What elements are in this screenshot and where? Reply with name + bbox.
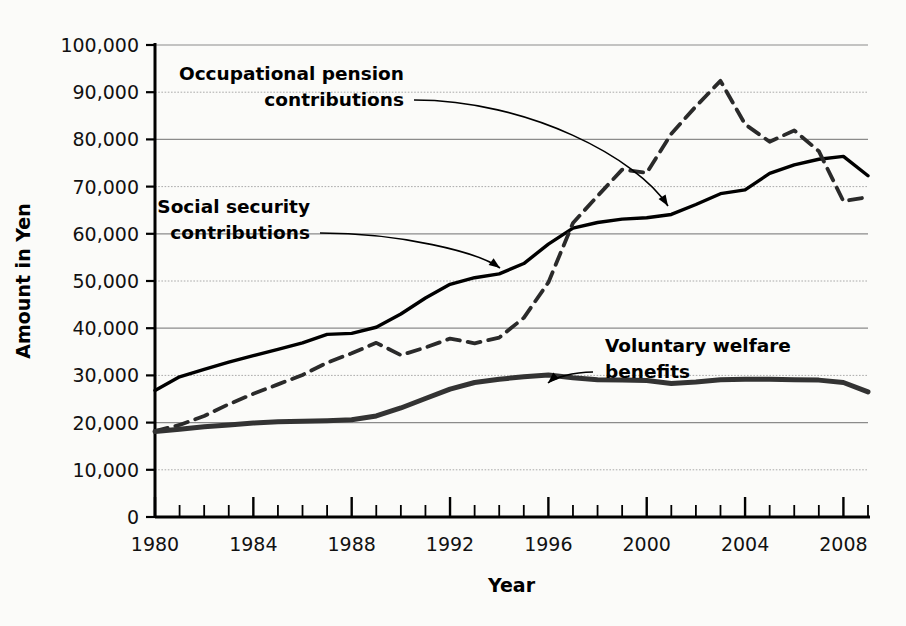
occupational-pension-annotation-leader (414, 100, 668, 206)
social-security-annotation-leader (320, 233, 500, 268)
line-chart: 010,00020,00030,00040,00050,00060,00070,… (0, 0, 906, 626)
x-tick-label: 2004 (721, 533, 769, 555)
x-axis: 19801984198819921996200020042008 (131, 497, 870, 555)
y-tick-label: 90,000 (73, 81, 139, 103)
annot-line: Social security (157, 196, 310, 217)
y-tick-label: 100,000 (60, 34, 139, 56)
x-axis-title: Year (487, 574, 536, 596)
x-tick-label: 1996 (524, 533, 572, 555)
x-tick-label: 1988 (328, 533, 376, 555)
annot-line: Voluntary welfare (605, 335, 791, 356)
y-tick-label: 50,000 (73, 270, 139, 292)
occupational-pension-annotation-label: Occupational pensioncontributions (179, 63, 404, 110)
y-tick-label: 20,000 (73, 412, 139, 434)
data-series (155, 81, 868, 432)
series-annotations: Occupational pensioncontributionsSocial … (157, 63, 791, 383)
chart-canvas: 010,00020,00030,00040,00050,00060,00070,… (0, 0, 906, 626)
social-security-annotation-arrowhead (489, 258, 500, 268)
gridlines (155, 45, 868, 470)
y-tick-label: 30,000 (73, 364, 139, 386)
annot-line: benefits (605, 361, 690, 382)
annot-line: contributions (170, 222, 310, 243)
occupational-pension-annotation: Occupational pensioncontributions (179, 63, 668, 206)
y-tick-label: 10,000 (73, 459, 139, 481)
x-tick-label: 1992 (426, 533, 474, 555)
social-security-annotation: Social securitycontributions (157, 196, 500, 268)
x-tick-label: 2008 (819, 533, 867, 555)
social-security-annotation-label: Social securitycontributions (157, 196, 310, 243)
x-tick-label: 2000 (623, 533, 671, 555)
annot-line: contributions (264, 89, 404, 110)
y-axis-title: Amount in Yen (12, 203, 34, 358)
y-tick-label: 60,000 (73, 223, 139, 245)
y-tick-label: 70,000 (73, 176, 139, 198)
annot-line: Occupational pension (179, 63, 404, 84)
y-tick-label: 40,000 (73, 317, 139, 339)
y-axis: 010,00020,00030,00040,00050,00060,00070,… (60, 34, 155, 528)
x-tick-label: 1980 (131, 533, 179, 555)
y-tick-label: 0 (127, 506, 139, 528)
x-tick-label: 1984 (229, 533, 277, 555)
y-tick-label: 80,000 (73, 128, 139, 150)
voluntary-welfare-annotation-label: Voluntary welfarebenefits (605, 335, 791, 382)
